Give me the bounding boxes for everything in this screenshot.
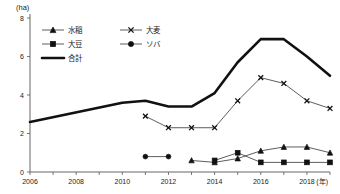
data-point-marker (212, 158, 217, 163)
legend-label: 水稲 (68, 25, 83, 35)
x-axis-tick-label: 2010 (115, 178, 131, 185)
data-point-marker (143, 154, 148, 159)
legend-label: 大麦 (146, 25, 161, 35)
chart-container: 024682006200820102012201420162018 水稲大麦大豆… (0, 0, 340, 194)
legend-label: ソバ (146, 40, 161, 49)
legend-item-4[interactable]: ソバ (120, 40, 161, 49)
data-point-marker (235, 98, 240, 103)
legend-layer: 水稲大麦大豆ソバ合計 (42, 25, 161, 63)
data-point-marker (328, 106, 333, 111)
x-axis-tick-label: 2006 (22, 178, 38, 185)
data-point-marker (143, 114, 148, 119)
data-point-marker (281, 160, 286, 165)
data-point-marker (235, 156, 240, 161)
x-axis-tick-label: 2014 (207, 178, 223, 185)
y-axis-unit-label: (ha) (16, 3, 30, 12)
x-axis-unit-label: (年) (316, 177, 328, 186)
y-axis-tick-label: 8 (20, 15, 24, 22)
x-axis-tick-label: 2018 (299, 178, 315, 185)
data-point-marker (305, 98, 310, 103)
legend-item-2[interactable]: 大麦 (120, 25, 161, 35)
series-4 (143, 154, 171, 159)
series-line (145, 78, 330, 128)
x-axis-tick-label: 2016 (253, 178, 269, 185)
y-axis-tick-label: 2 (20, 130, 24, 137)
data-point-marker (128, 41, 133, 46)
data-point-marker (258, 75, 263, 80)
data-point-marker (166, 154, 171, 159)
series-line (30, 39, 330, 122)
legend-item-3[interactable]: 大豆 (42, 39, 83, 49)
legend-label: 合計 (68, 53, 83, 63)
x-axis-tick-label: 2008 (68, 178, 84, 185)
series-3 (212, 150, 332, 164)
data-point-marker (235, 150, 240, 155)
line-chart: 024682006200820102012201420162018 水稲大麦大豆… (0, 0, 340, 194)
y-axis-tick-label: 6 (20, 53, 24, 60)
legend-item-1[interactable]: 水稲 (42, 25, 83, 35)
data-point-marker (281, 81, 286, 86)
data-point-marker (328, 160, 333, 165)
data-point-marker (258, 160, 263, 165)
legend-label: 大豆 (68, 39, 83, 49)
legend-item-5[interactable]: 合計 (42, 53, 83, 63)
series-line (215, 153, 330, 163)
series-2 (143, 75, 332, 130)
data-point-marker (50, 41, 55, 46)
y-axis-tick-label: 0 (20, 169, 24, 176)
x-axis-tick-label: 2012 (161, 178, 177, 185)
series-5 (30, 39, 330, 122)
data-point-marker (305, 160, 310, 165)
y-axis-tick-label: 4 (20, 92, 24, 99)
